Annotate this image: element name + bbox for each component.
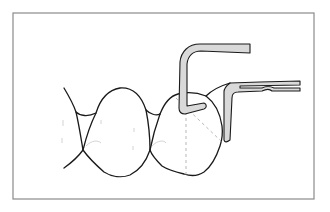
middle-tooth-outline <box>83 88 150 177</box>
left-tooth-side <box>76 112 83 150</box>
left-tooth-partial <box>62 88 96 168</box>
middle-tooth <box>83 88 160 177</box>
matrix-arm <box>224 81 300 142</box>
right-tooth-contact-mark <box>152 141 166 146</box>
left-tooth-gumline <box>64 88 96 116</box>
left-tooth-shade <box>62 120 63 143</box>
middle-tooth-contact-mark <box>86 141 101 146</box>
middle-tooth-gum-right <box>146 110 160 115</box>
middle-tooth-shade <box>101 120 134 150</box>
left-tooth-root-edge <box>64 150 83 168</box>
hooked-probe <box>179 44 250 114</box>
dental-illustration <box>0 0 330 212</box>
middle-tooth-contact <box>150 114 160 150</box>
